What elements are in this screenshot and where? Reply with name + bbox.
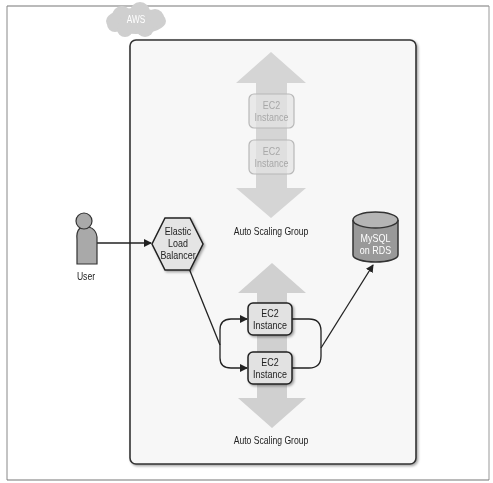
user-icon <box>76 213 97 264</box>
ec2-2-line1: EC2 <box>251 356 288 368</box>
scaling-group-bottom-label: Auto Scaling Group <box>230 434 312 446</box>
aws-cloud-label: AWS <box>120 14 153 25</box>
ec2-faded-1-label: EC2 Instance <box>252 99 290 123</box>
database-label-line1: MySQL <box>354 232 397 244</box>
database-label-line2: on RDS <box>354 244 397 256</box>
ec2-1-line1: EC2 <box>251 307 288 319</box>
architecture-diagram <box>0 0 493 483</box>
ec2-1-line2: Instance <box>251 319 288 331</box>
ec2-faded-2-line1: EC2 <box>252 145 290 157</box>
elb-label-line3: Balancer <box>154 249 202 261</box>
ec2-faded-1-line2: Instance <box>252 111 290 123</box>
user-label: User <box>70 270 103 282</box>
elb-label-line2: Load <box>154 237 202 249</box>
ec2-2-line2: Instance <box>251 368 288 380</box>
ec2-faded-2-label: EC2 Instance <box>252 145 290 169</box>
elb-label-line1: Elastic <box>154 225 202 237</box>
elb-label: Elastic Load Balancer <box>154 225 202 261</box>
ec2-faded-2-line2: Instance <box>252 157 290 169</box>
database-label: MySQL on RDS <box>354 232 397 256</box>
ec2-2-label: EC2 Instance <box>251 356 288 380</box>
ec2-1-label: EC2 Instance <box>251 307 288 331</box>
ec2-faded-1-line1: EC2 <box>252 99 290 111</box>
scaling-group-top-label: Auto Scaling Group <box>230 225 312 237</box>
